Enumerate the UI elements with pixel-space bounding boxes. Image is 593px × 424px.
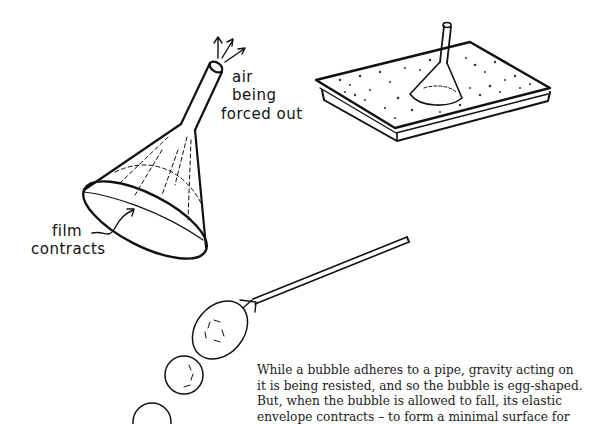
caption-text: While a bubble adheres to a pipe, gravit… (257, 363, 593, 424)
tray-drawing (316, 23, 550, 142)
pipe-with-bubble (181, 237, 409, 370)
label-being: being (232, 86, 276, 104)
falling-bubbles (133, 356, 203, 424)
label-forced-out: forced out (221, 105, 303, 123)
caption-line: envelope contracts – to form a minimal s… (257, 410, 593, 424)
caption-line: While a bubble adheres to a pipe, gravit… (257, 363, 593, 379)
caption-line: it is being resisted, and so the bubble … (257, 379, 593, 395)
illustration: air being forced out film contracts (0, 0, 593, 424)
label-film: film (52, 222, 82, 240)
funnel-drawing (73, 37, 245, 274)
label-air: air (232, 68, 253, 86)
caption-line: But, when the bubble is allowed to fall,… (257, 394, 593, 410)
label-contracts: contracts (31, 240, 106, 258)
page: air being forced out film contracts (0, 0, 593, 424)
